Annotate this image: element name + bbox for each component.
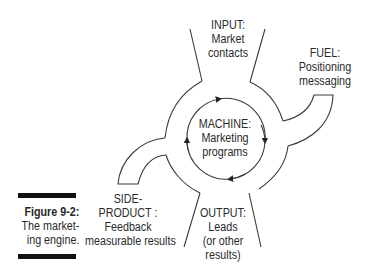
side-product-line: measurable results bbox=[85, 234, 171, 248]
machine-title: MACHINE: bbox=[197, 117, 252, 131]
fuel-line: messaging bbox=[295, 74, 355, 88]
input-title: INPUT: bbox=[202, 18, 254, 32]
caption-rule-bottom bbox=[18, 254, 76, 259]
figure-caption: Figure 9-2: The market- ing engine. bbox=[21, 205, 79, 247]
side-product-title: SIDE- bbox=[85, 192, 171, 206]
side-product-title: PRODUCT : bbox=[85, 206, 171, 220]
input-line: Market bbox=[202, 32, 254, 46]
side-product-line: Feedback bbox=[85, 220, 171, 234]
machine-line: Marketing bbox=[197, 131, 252, 145]
output-line: (or other bbox=[197, 234, 249, 248]
input-label: INPUT: Market contacts bbox=[202, 18, 254, 60]
output-line: results) bbox=[197, 248, 249, 262]
output-line: Leads bbox=[197, 220, 249, 234]
machine-line: programs bbox=[197, 145, 252, 159]
machine-label: MACHINE: Marketing programs bbox=[197, 117, 252, 159]
fuel-label: FUEL: Positioning messaging bbox=[295, 46, 355, 88]
output-label: OUTPUT: Leads (or other results) bbox=[197, 206, 249, 262]
caption-line: The market- bbox=[21, 219, 79, 233]
fuel-line: Positioning bbox=[295, 60, 355, 74]
marketing-engine-figure: INPUT: Market contacts FUEL: Positioning… bbox=[0, 0, 371, 277]
caption-rule-top bbox=[18, 193, 76, 198]
caption-line: ing engine. bbox=[21, 233, 79, 247]
fuel-title: FUEL: bbox=[295, 46, 355, 60]
input-line: contacts bbox=[202, 46, 254, 60]
side-product-label: SIDE- PRODUCT : Feedback measurable resu… bbox=[85, 192, 171, 248]
figure-number: Figure 9-2: bbox=[21, 205, 79, 219]
output-title: OUTPUT: bbox=[197, 206, 249, 220]
